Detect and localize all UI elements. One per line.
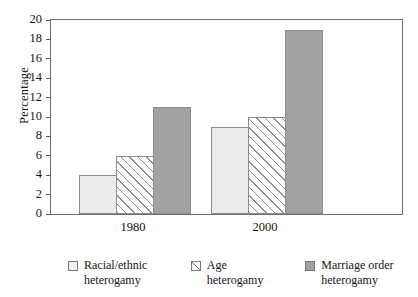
y-tick-label: 4 <box>36 166 42 183</box>
bar <box>153 107 191 214</box>
y-tick-mark <box>46 117 51 118</box>
bar <box>248 117 286 214</box>
y-tick-label: 16 <box>30 50 43 67</box>
y-tick-label: 0 <box>36 205 42 222</box>
legend-item: Age heterogamy <box>191 258 286 287</box>
y-tick-mark <box>46 58 51 59</box>
y-tick-label: 6 <box>36 147 42 164</box>
y-tick-mark <box>46 39 51 40</box>
bar <box>211 127 249 214</box>
legend-swatch-icon <box>191 261 201 271</box>
plot-area: 02468101214161820 <box>50 19 403 215</box>
legend-label: Racial/ethnic heterogamy <box>84 258 171 287</box>
legend-label: Marriage order heterogamy <box>321 258 408 287</box>
bar-chart-figure: Percentage 02468101214161820 19802000 Ra… <box>0 0 418 297</box>
y-tick-mark <box>46 155 51 156</box>
y-tick-mark <box>46 214 51 215</box>
y-tick-label: 18 <box>30 30 43 47</box>
bar <box>79 175 117 214</box>
plot-inner: 02468101214161820 <box>51 20 402 214</box>
x-axis-category-label: 2000 <box>225 219 305 235</box>
y-tick-mark <box>46 175 51 176</box>
y-tick-label: 10 <box>30 108 43 125</box>
legend-item: Racial/ethnic heterogamy <box>68 258 171 287</box>
bar <box>116 156 154 214</box>
y-tick-label: 12 <box>30 89 43 106</box>
y-tick-mark <box>46 78 51 79</box>
bar <box>285 30 323 214</box>
y-tick-label: 20 <box>30 11 43 28</box>
legend-item: Marriage order heterogamy <box>305 258 408 287</box>
y-tick-mark <box>46 97 51 98</box>
x-axis-category-label: 1980 <box>93 219 173 235</box>
legend-swatch-icon <box>68 261 78 271</box>
legend-swatch-icon <box>305 261 315 271</box>
y-tick-label: 14 <box>30 69 43 86</box>
y-tick-mark <box>46 136 51 137</box>
y-tick-mark <box>46 194 51 195</box>
y-tick-mark <box>46 20 51 21</box>
y-tick-label: 2 <box>36 186 42 203</box>
y-tick-label: 8 <box>36 127 42 144</box>
chart-legend: Racial/ethnic heterogamyAge heterogamyMa… <box>68 258 408 287</box>
legend-label: Age heterogamy <box>207 258 286 287</box>
